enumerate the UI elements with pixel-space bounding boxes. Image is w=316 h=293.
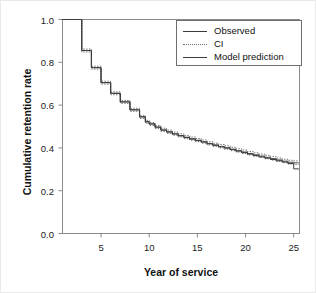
x-tick-label: 15 <box>192 242 203 253</box>
legend-item-observed: Observed <box>182 24 296 37</box>
legend-label: Model prediction <box>214 50 284 63</box>
x-tick-label: 20 <box>240 242 251 253</box>
x-tick-label: 25 <box>288 242 299 253</box>
y-tick-label: 0.0 <box>24 228 54 239</box>
x-tick-label: 10 <box>144 242 155 253</box>
x-axis-ticks <box>101 234 294 238</box>
x-axis-title: Year of service <box>62 266 300 278</box>
y-axis-title: Cumulative retention rate <box>21 47 33 217</box>
solid-line-icon <box>182 52 208 62</box>
legend-item-ci: CI <box>182 37 296 50</box>
legend-item-model-prediction: Model prediction <box>182 50 296 63</box>
legend-label: CI <box>214 37 224 50</box>
solid-line-icon <box>182 26 208 36</box>
y-axis-ticks <box>59 20 63 234</box>
y-tick-label: 1.0 <box>24 14 54 25</box>
x-tick-label: 5 <box>98 242 103 253</box>
chart-legend: Observed CI Model prediction <box>176 20 302 66</box>
dotted-line-icon <box>182 39 208 49</box>
retention-rate-figure: 0.00.20.40.60.81.0 510152025 Cumulative … <box>0 0 316 293</box>
legend-label: Observed <box>214 24 255 37</box>
